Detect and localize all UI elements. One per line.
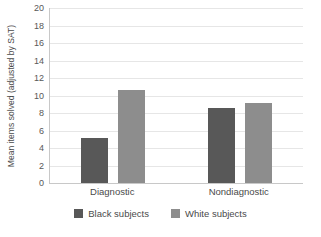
y-tick-label: 6	[39, 126, 44, 135]
y-tick-label: 18	[34, 21, 44, 30]
bar	[81, 138, 108, 183]
bars-layer	[50, 8, 303, 183]
legend-item: White subjects	[171, 208, 247, 219]
legend-label: Black subjects	[88, 208, 149, 219]
bar	[208, 108, 235, 183]
gridline	[50, 183, 303, 184]
y-tick-label: 10	[34, 91, 44, 100]
legend-item: Black subjects	[74, 208, 149, 219]
bar-chart-figure: Mean items solved (adjusted by SAT) 2018…	[0, 0, 321, 237]
y-tick-label: 8	[39, 109, 44, 118]
x-tick-label: Nondiagnostic	[209, 186, 269, 197]
bar	[245, 103, 272, 183]
y-axis-tick-labels: 20181614121086420	[24, 8, 47, 183]
y-tick-label: 14	[34, 56, 44, 65]
y-tick-label: 20	[34, 4, 44, 13]
y-tick-label: 4	[39, 144, 44, 153]
legend-swatch-icon	[74, 209, 83, 218]
plot-area	[49, 8, 303, 184]
bar	[118, 90, 145, 183]
x-axis-tick-labels: DiagnosticNondiagnostic	[49, 186, 302, 202]
bar-group	[50, 8, 177, 183]
y-axis-title: Mean items solved (adjusted by SAT)	[0, 0, 22, 192]
legend-label: White subjects	[185, 208, 247, 219]
y-tick-label: 12	[34, 74, 44, 83]
y-tick-label: 0	[39, 179, 44, 188]
y-tick-label: 2	[39, 161, 44, 170]
legend-swatch-icon	[171, 209, 180, 218]
bar-group	[177, 8, 304, 183]
y-tick-label: 16	[34, 39, 44, 48]
x-tick-label: Diagnostic	[90, 186, 134, 197]
y-axis-title-text: Mean items solved (adjusted by SAT)	[6, 25, 16, 167]
chart-legend: Black subjectsWhite subjects	[0, 208, 321, 219]
